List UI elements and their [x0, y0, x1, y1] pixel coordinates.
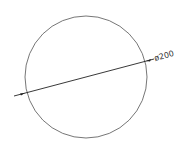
drawing-canvas: ø200 [0, 0, 190, 147]
cad-drawing: ø200 [0, 0, 190, 147]
arrowhead-left-icon [20, 93, 25, 96]
dimension-label: ø200 [153, 49, 175, 63]
diameter-dimension-line [14, 59, 154, 96]
